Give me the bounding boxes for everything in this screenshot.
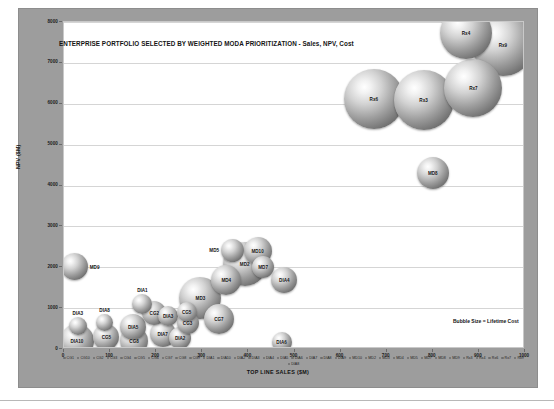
bubble-point[interactable] — [63, 253, 88, 280]
y-axis-tickmark — [59, 307, 62, 308]
legend-swatch-icon — [234, 357, 236, 359]
bubble-point[interactable] — [211, 265, 241, 295]
legend-item[interactable]: DIA2 — [234, 355, 245, 361]
legend-swatch-icon — [501, 357, 503, 359]
y-axis-tickmark — [59, 185, 62, 186]
legend-item[interactable]: MD9 — [449, 355, 460, 361]
legend-item[interactable]: CG4 — [120, 355, 131, 361]
legend-item-label: MD2 — [368, 355, 376, 361]
legend-swatch-icon — [407, 357, 409, 359]
legend-item[interactable]: MD3 — [379, 355, 390, 361]
legend-item-label: DIA4 — [266, 355, 274, 361]
legend-item[interactable]: MD4 — [393, 355, 404, 361]
legend-item[interactable]: DIA10 — [217, 355, 230, 361]
legend-item[interactable]: MD8 — [435, 355, 446, 361]
bubble-point[interactable] — [271, 267, 297, 293]
legend-item[interactable]: CG10 — [77, 355, 90, 361]
legend-swatch-icon — [335, 357, 337, 359]
bubble-point[interactable] — [204, 304, 234, 334]
legend-item[interactable]: MD5 — [407, 355, 418, 361]
x-axis-tickmark — [386, 349, 387, 352]
bubble-label: DIA3 — [73, 311, 83, 316]
legend-item-label: DIA7 — [309, 355, 317, 361]
legend-swatch-icon — [421, 357, 423, 359]
y-axis-tick-label: 8000 — [34, 19, 58, 24]
x-axis-tickmark — [340, 349, 341, 352]
legend-item[interactable]: Rx9 — [514, 355, 524, 361]
y-axis-tick-label: 4000 — [34, 182, 58, 187]
legend-item-label: CG7 — [165, 355, 172, 361]
bubble-point[interactable] — [177, 302, 197, 322]
y-axis-tick-label: 0 — [34, 346, 58, 351]
legend-item[interactable]: Rx4 — [476, 355, 486, 361]
bubble-point[interactable] — [417, 157, 449, 189]
x-axis-tickmark — [155, 349, 156, 352]
bubble-point[interactable] — [158, 306, 178, 326]
legend-item[interactable]: CG7 — [162, 355, 173, 361]
legend-swatch-icon — [93, 357, 95, 359]
bubble-label: MD5 — [209, 248, 219, 253]
legend-item[interactable]: MD7 — [421, 355, 432, 361]
legend-swatch-icon — [189, 357, 191, 359]
legend-item[interactable]: Rx7 — [501, 355, 511, 361]
chart-title: ENTERPRISE PORTFOLIO SELECTED BY WEIGHTE… — [59, 40, 354, 47]
legend-swatch-icon — [349, 357, 351, 359]
bubble-point[interactable] — [272, 332, 292, 348]
legend-item[interactable]: CG2 — [93, 355, 104, 361]
legend-item[interactable]: CG9 — [189, 355, 200, 361]
y-axis-tickmark — [59, 144, 62, 145]
legend-swatch-icon — [306, 357, 308, 359]
legend-swatch-icon — [476, 357, 478, 359]
legend-item-label: CG9 — [193, 355, 200, 361]
legend-item[interactable]: Rx6 — [488, 355, 498, 361]
legend-item-label: DIA3 — [252, 355, 260, 361]
legend-swatch-icon — [203, 357, 205, 359]
chart-legend: CG1CG10CG2CG3CG4CG5CG6CG7CG8CG9DIA1DIA10… — [63, 355, 524, 367]
legend-swatch-icon — [320, 357, 322, 359]
legend-item-label: CG3 — [110, 355, 117, 361]
x-axis-tickmark — [432, 349, 433, 352]
gridline — [64, 186, 523, 187]
legend-item-label: CG1 — [67, 355, 74, 361]
legend-item[interactable]: DIA3 — [248, 355, 259, 361]
legend-item[interactable]: CG8 — [175, 355, 186, 361]
legend-swatch-icon — [514, 357, 516, 359]
legend-item[interactable]: DIA8 — [320, 355, 331, 361]
legend-item[interactable]: MD10 — [349, 355, 362, 361]
legend-item[interactable]: MD2 — [365, 355, 376, 361]
legend-item-label: Rx3 — [466, 355, 472, 361]
legend-item-label: MD7 — [424, 355, 432, 361]
legend-item[interactable]: CG1 — [63, 355, 74, 361]
legend-item-label: MD8 — [438, 355, 446, 361]
legend-item-label: CG10 — [80, 355, 89, 361]
legend-item[interactable]: CG6 — [148, 355, 159, 361]
x-axis-tickmark — [524, 349, 525, 352]
legend-item[interactable]: CG3 — [107, 355, 118, 361]
legend-item-label: MD10 — [352, 355, 362, 361]
legend-swatch-icon — [277, 357, 279, 359]
y-axis-tick-label: 3000 — [34, 223, 58, 228]
legend-item[interactable]: DIA8 — [288, 361, 299, 367]
legend-item[interactable]: Rx3 — [463, 355, 473, 361]
legend-swatch-icon — [63, 357, 65, 359]
legend-item[interactable]: DIA7 — [306, 355, 317, 361]
x-axis-tickmark — [63, 349, 64, 352]
gridline — [64, 145, 523, 146]
legend-item[interactable]: DIA1 — [203, 355, 214, 361]
legend-item[interactable]: DIA5 — [277, 355, 288, 361]
legend-item-label: MD5 — [410, 355, 418, 361]
legend-item-label: DIA8 — [291, 361, 299, 367]
legend-item-label: CG4 — [124, 355, 131, 361]
legend-swatch-icon — [175, 357, 177, 359]
y-axis-tick-label: 2000 — [34, 264, 58, 269]
legend-swatch-icon — [463, 357, 465, 359]
bubble-point[interactable] — [69, 317, 87, 335]
legend-swatch-icon — [488, 357, 490, 359]
slide-divider — [0, 400, 554, 401]
legend-swatch-icon — [217, 357, 219, 359]
legend-item[interactable]: DIA4 — [263, 355, 274, 361]
legend-item[interactable]: DIA9 — [335, 355, 346, 361]
x-axis-title: TOP LINE SALES ($M) — [19, 369, 537, 375]
bubble-point[interactable] — [444, 59, 502, 117]
legend-item[interactable]: CG5 — [134, 355, 145, 361]
